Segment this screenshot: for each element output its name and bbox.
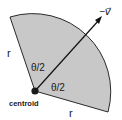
arrow-label: −v⃗ [99,6,112,17]
half-angle-label-upper: θ/2 [31,62,45,73]
radius-label-bottom: r [69,107,73,119]
centroid-label: centroid [9,99,39,108]
radius-label-left: r [7,47,11,59]
centroid-dot [31,87,38,94]
sector-diagram: r r θ/2 θ/2 centroid −v⃗ [0,0,122,120]
half-angle-label-lower: θ/2 [51,82,65,93]
